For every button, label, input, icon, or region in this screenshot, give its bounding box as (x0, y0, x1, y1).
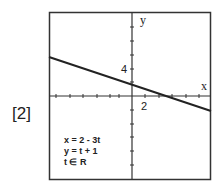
equation-domain: t ∈ R (64, 157, 87, 167)
plot: y x 4 2 (0, 0, 216, 189)
y-axis-label: y (140, 13, 146, 27)
parametric-line (49, 57, 211, 111)
x-axis-label: x (201, 79, 207, 93)
y-tick-label: 4 (121, 63, 127, 75)
equation-y: y = t + 1 (64, 146, 98, 156)
equation-x: x = 2 - 3t (64, 135, 100, 145)
x-tick-label: 2 (141, 100, 147, 112)
